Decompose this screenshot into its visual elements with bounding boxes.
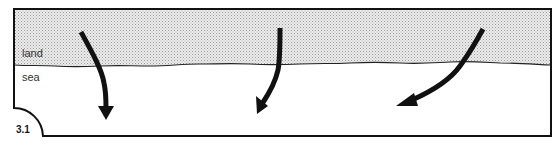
figure-number: 3.1 xyxy=(16,125,30,135)
land-label: land xyxy=(22,48,43,59)
sea-label: sea xyxy=(22,72,40,83)
land-sea-diagram xyxy=(0,0,559,146)
